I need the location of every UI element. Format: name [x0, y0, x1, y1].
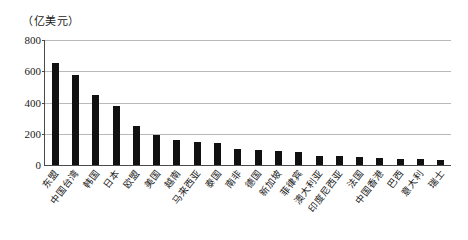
- x-axis-category-labels: 东盟中国台湾韩国日本欧盟美国越南马来西亚泰国南非德国新加坡菲律宾澳大利亚印度尼西…: [44, 167, 450, 237]
- x-label-slot: 中国香港: [369, 167, 389, 237]
- bar: [336, 156, 343, 165]
- x-label-slot: 美国: [145, 167, 165, 237]
- bar-slot: [390, 40, 410, 165]
- bar: [295, 152, 302, 165]
- bar: [234, 149, 241, 165]
- bar: [72, 75, 79, 165]
- bar: [437, 160, 444, 165]
- x-axis-category-label: 南非: [224, 169, 244, 191]
- x-axis-category-label: 韩国: [82, 169, 102, 191]
- bar-slot: [268, 40, 288, 165]
- x-axis-category-label: 美国: [143, 169, 163, 191]
- bar-slot: [329, 40, 349, 165]
- x-label-slot: 南非: [227, 167, 247, 237]
- bar-slot: [86, 40, 106, 165]
- x-label-slot: 印度尼西亚: [328, 167, 348, 237]
- bar: [153, 135, 160, 165]
- x-label-slot: 瑞士: [430, 167, 450, 237]
- y-axis-unit-label: （亿美元）: [22, 12, 80, 28]
- bar-slot: [65, 40, 85, 165]
- bar: [92, 95, 99, 165]
- x-label-slot: 日本: [105, 167, 125, 237]
- bar: [316, 156, 323, 165]
- bar-slot: [228, 40, 248, 165]
- bar-slot: [146, 40, 166, 165]
- bar: [275, 151, 282, 165]
- bar-slot: [431, 40, 451, 165]
- bar-slot: [309, 40, 329, 165]
- x-label-slot: 德国: [247, 167, 267, 237]
- y-axis-tick-label: 800: [25, 35, 42, 46]
- bar-chart-figure: （亿美元） 0200400600800 东盟中国台湾韩国日本欧盟美国越南马来西亚…: [0, 0, 468, 240]
- x-axis-category-label: 泰国: [204, 169, 224, 191]
- x-label-slot: 意大利: [409, 167, 429, 237]
- x-label-slot: 韩国: [85, 167, 105, 237]
- bar-slot: [126, 40, 146, 165]
- bar-slot: [410, 40, 430, 165]
- bar: [194, 142, 201, 165]
- bar: [113, 106, 120, 165]
- bar-slot: [167, 40, 187, 165]
- y-axis-tick-label: 0: [36, 160, 42, 171]
- bar: [397, 159, 404, 165]
- bar: [417, 159, 424, 165]
- bar-slot: [106, 40, 126, 165]
- bar-slot: [248, 40, 268, 165]
- bar: [52, 63, 59, 165]
- bar: [255, 150, 262, 165]
- bar-slot: [289, 40, 309, 165]
- bar: [214, 143, 221, 165]
- x-label-slot: 欧盟: [125, 167, 145, 237]
- x-label-slot: 新加坡: [267, 167, 287, 237]
- bar-slot: [45, 40, 65, 165]
- y-axis-tick-label: 400: [25, 97, 42, 108]
- bar-slot: [370, 40, 390, 165]
- bar-slot: [349, 40, 369, 165]
- y-axis-tick-label: 600: [25, 66, 42, 77]
- x-label-slot: 中国台湾: [64, 167, 84, 237]
- bar-slot: [187, 40, 207, 165]
- bar-series: [45, 40, 451, 165]
- bar: [376, 158, 383, 165]
- y-axis-tick-label: 200: [25, 128, 42, 139]
- plot-area: 0200400600800: [44, 40, 451, 166]
- x-label-slot: 泰国: [206, 167, 226, 237]
- x-label-slot: 马来西亚: [186, 167, 206, 237]
- x-axis-category-label: 欧盟: [123, 169, 143, 191]
- bar-slot: [207, 40, 227, 165]
- bar: [173, 140, 180, 165]
- x-axis-category-label: 日本: [103, 169, 123, 191]
- bar: [133, 126, 140, 165]
- bar: [356, 157, 363, 165]
- x-axis-category-label: 瑞士: [427, 169, 447, 191]
- x-label-slot: 巴西: [389, 167, 409, 237]
